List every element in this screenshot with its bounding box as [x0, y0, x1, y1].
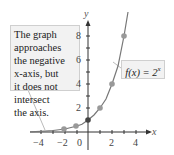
y-tick-label: 8 — [76, 30, 81, 41]
function-label-base: f(x) = 2 — [125, 67, 157, 78]
x-tick-label: 2 — [109, 137, 114, 148]
callout-line: the negative — [14, 54, 76, 67]
callout-line: the axis. — [14, 106, 76, 119]
x-axis-label: x — [152, 126, 156, 137]
callout-line: x-axis, but — [14, 67, 76, 80]
y-tick-label: 6 — [76, 54, 81, 65]
callout-line: The graph — [14, 28, 76, 41]
function-label-leader — [113, 62, 121, 68]
function-label-exponent: x — [158, 65, 161, 73]
y-tick-label: 4 — [76, 78, 81, 89]
y-tick-label: 2 — [76, 102, 81, 113]
x-tick-label: 4 — [133, 137, 138, 148]
callout-line: intersect — [14, 93, 76, 106]
callout-line: it does not — [14, 80, 76, 93]
x-tick-label: 0 — [77, 137, 82, 148]
x-tick-label: −2 — [57, 137, 68, 148]
function-label: f(x) = 2x — [121, 60, 165, 79]
y-axis-arrow-icon — [86, 20, 91, 26]
annotation-callout: The graph approaches the negative x-axis… — [10, 25, 80, 91]
y-axis-label: y — [84, 8, 88, 19]
callout-line: approaches — [14, 41, 76, 54]
x-tick-label: −4 — [33, 137, 44, 148]
